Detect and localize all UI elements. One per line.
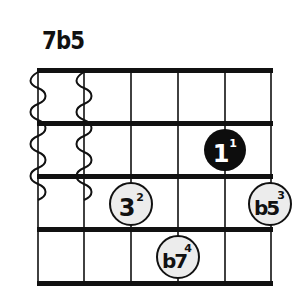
dot-degree: b5: [254, 196, 279, 220]
fret-line-4: [37, 281, 273, 286]
dot-finger: 2: [136, 191, 144, 204]
dot-root: 1 1: [204, 129, 246, 171]
dot-flat-fifth: b5 3: [249, 183, 291, 225]
nut-line: [37, 68, 273, 73]
dot-finger: 1: [229, 137, 237, 150]
fretboard-diagram: 1 1 3 2 b5 3 b7 4: [0, 0, 304, 299]
dot-degree: 1: [213, 140, 230, 168]
dot-third: 3 2: [110, 183, 152, 225]
fret-line-3: [37, 227, 273, 232]
dot-finger: 3: [277, 189, 285, 202]
fret-lines: [37, 68, 273, 286]
dot-degree: 3: [119, 194, 136, 222]
fret-line-1: [37, 121, 273, 126]
fret-line-2: [37, 174, 273, 179]
dot-flat-seventh: b7 4: [157, 236, 199, 278]
dot-finger: 4: [184, 242, 192, 255]
